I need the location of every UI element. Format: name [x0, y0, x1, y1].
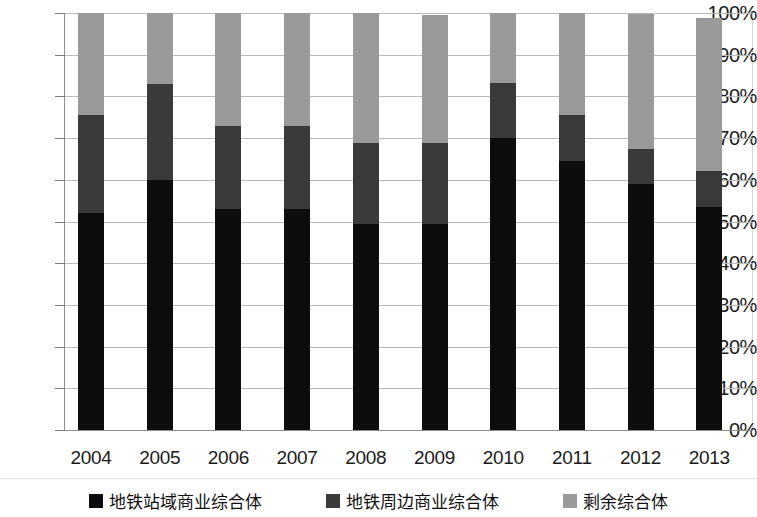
- y-axis-tick-mark: [55, 263, 65, 264]
- bar-2006[interactable]: [215, 13, 241, 430]
- bar-segment-surrounding-complex-2004[interactable]: [78, 115, 104, 213]
- x-axis-label-2009: 2009: [400, 447, 470, 469]
- x-axis-label-2006: 2006: [193, 447, 263, 469]
- bar-2010[interactable]: [490, 13, 516, 430]
- legend-label-2: 地铁周边商业综合体: [346, 488, 499, 513]
- bar-segment-station-complex-2006[interactable]: [215, 209, 241, 430]
- bar-2009[interactable]: [422, 15, 448, 430]
- y-axis-tick-mark: [55, 347, 65, 348]
- bar-segment-remaining-complex-2009[interactable]: [422, 15, 448, 143]
- x-axis-label-2013: 2013: [674, 447, 744, 469]
- legend-swatch-station-complex: [89, 494, 103, 508]
- bar-segment-surrounding-complex-2005[interactable]: [147, 84, 173, 180]
- chart-container: 0%10%20%30%40%50%60%70%80%90%100% 200420…: [0, 0, 757, 517]
- bar-segment-remaining-complex-2004[interactable]: [78, 13, 104, 115]
- bar-segment-station-complex-2013[interactable]: [696, 207, 722, 430]
- bar-segment-remaining-complex-2010[interactable]: [490, 13, 516, 83]
- bar-segment-station-complex-2012[interactable]: [628, 184, 654, 430]
- legend-item-2[interactable]: 地铁周边商业综合体: [326, 488, 499, 513]
- bar-segment-remaining-complex-2012[interactable]: [628, 14, 654, 148]
- legend-divider: [0, 478, 757, 479]
- bar-segment-station-complex-2005[interactable]: [147, 180, 173, 430]
- x-axis-label-2007: 2007: [262, 447, 332, 469]
- bar-segment-remaining-complex-2007[interactable]: [284, 13, 310, 126]
- y-axis-tick-mark: [55, 138, 65, 139]
- y-axis-tick-mark: [55, 388, 65, 389]
- bar-2008[interactable]: [353, 13, 379, 430]
- bar-segment-remaining-complex-2005[interactable]: [147, 13, 173, 84]
- bar-segment-remaining-complex-2006[interactable]: [215, 13, 241, 126]
- y-axis-tick-mark: [55, 180, 65, 181]
- x-axis-label-2008: 2008: [331, 447, 401, 469]
- legend-item-3[interactable]: 剩余综合体: [563, 488, 668, 513]
- y-axis-tick-mark: [55, 13, 65, 14]
- bar-segment-remaining-complex-2011[interactable]: [559, 13, 585, 115]
- bar-2013[interactable]: [696, 18, 722, 430]
- y-axis-tick-mark: [55, 222, 65, 223]
- legend-item-1[interactable]: 地铁站域商业综合体: [89, 488, 262, 513]
- bar-segment-remaining-complex-2013[interactable]: [696, 18, 722, 171]
- bar-segment-station-complex-2010[interactable]: [490, 138, 516, 430]
- bar-segment-surrounding-complex-2006[interactable]: [215, 126, 241, 209]
- bar-segment-station-complex-2011[interactable]: [559, 161, 585, 430]
- bar-segment-station-complex-2004[interactable]: [78, 213, 104, 430]
- bar-segment-station-complex-2009[interactable]: [422, 224, 448, 430]
- x-axis-label-2012: 2012: [606, 447, 676, 469]
- y-axis-tick-mark: [55, 96, 65, 97]
- chart-legend: 地铁站域商业综合体地铁周边商业综合体剩余综合体: [0, 484, 757, 517]
- bar-2005[interactable]: [147, 13, 173, 430]
- bar-segment-surrounding-complex-2007[interactable]: [284, 126, 310, 209]
- legend-label-3: 剩余综合体: [583, 488, 668, 513]
- bar-segment-surrounding-complex-2013[interactable]: [696, 171, 722, 206]
- bar-2012[interactable]: [628, 14, 654, 430]
- legend-swatch-remaining-complex: [563, 494, 577, 508]
- y-axis-tick-mark: [55, 305, 65, 306]
- x-axis-label-2005: 2005: [125, 447, 195, 469]
- legend-swatch-surrounding-complex: [326, 494, 340, 508]
- plot-area: [65, 13, 752, 430]
- x-axis-label-2010: 2010: [468, 447, 538, 469]
- bar-segment-surrounding-complex-2009[interactable]: [422, 143, 448, 223]
- x-axis-label-2004: 2004: [56, 447, 126, 469]
- bar-segment-surrounding-complex-2008[interactable]: [353, 143, 379, 223]
- bar-segment-surrounding-complex-2012[interactable]: [628, 149, 654, 184]
- x-axis-label-2011: 2011: [537, 447, 607, 469]
- bar-segment-surrounding-complex-2011[interactable]: [559, 115, 585, 161]
- bar-segment-station-complex-2007[interactable]: [284, 209, 310, 430]
- bar-segment-station-complex-2008[interactable]: [353, 224, 379, 430]
- y-axis-tick-mark: [55, 55, 65, 56]
- legend-label-1: 地铁站域商业综合体: [109, 488, 262, 513]
- bar-2004[interactable]: [78, 13, 104, 430]
- bar-2011[interactable]: [559, 13, 585, 430]
- gridline-0pct: [65, 430, 752, 431]
- bar-segment-surrounding-complex-2010[interactable]: [490, 83, 516, 138]
- bar-segment-remaining-complex-2008[interactable]: [353, 13, 379, 143]
- y-axis-tick-mark: [55, 430, 65, 431]
- bar-2007[interactable]: [284, 13, 310, 430]
